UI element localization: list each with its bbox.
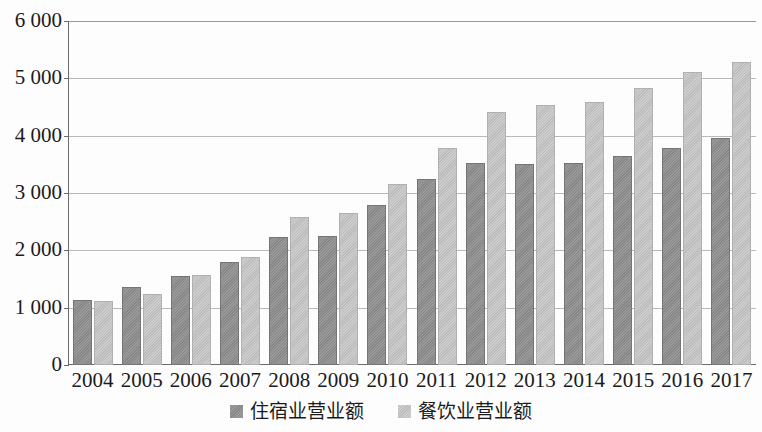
x-axis-tick-label: 2010 [363,368,412,392]
x-axis-labels: 2004200520062007200820092010201120122013… [68,368,756,396]
y-axis-tick-label: 2 000 [0,239,62,260]
bar-group [461,21,510,365]
bar-2005-accommodation[interactable] [122,287,141,365]
bar-group [215,21,264,365]
y-axis-tick-label: 0 [0,354,62,375]
bar-2016-accommodation[interactable] [662,148,681,365]
bar-2017-accommodation[interactable] [711,138,730,365]
legend-label-catering: 餐饮业营业额 [418,401,532,422]
x-axis-tick-label: 2015 [609,368,658,392]
bar-2005-catering[interactable] [143,294,162,365]
bar-2017-catering[interactable] [732,62,751,365]
bar-2015-catering[interactable] [634,88,653,365]
x-axis-tick-label: 2009 [314,368,363,392]
bar-2004-accommodation[interactable] [73,300,92,365]
bar-2011-accommodation[interactable] [417,179,436,365]
bar-group [510,21,559,365]
y-axis-tick-label: 4 000 [0,125,62,146]
bar-2016-catering[interactable] [683,72,702,365]
bar-group [265,21,314,365]
bar-2014-accommodation[interactable] [564,163,583,365]
bar-group [609,21,658,365]
chart-legend: 住宿业营业额 餐饮业营业额 [0,401,762,422]
y-axis-labels: 01 0002 0003 0004 0005 0006 000 [0,0,62,432]
bar-2013-accommodation[interactable] [515,164,534,365]
bar-2012-catering[interactable] [487,112,506,365]
y-axis-tick-label: 6 000 [0,10,62,31]
bar-2010-accommodation[interactable] [367,205,386,365]
y-axis-tick-label: 3 000 [0,182,62,203]
bar-2009-catering[interactable] [339,213,358,366]
bar-group [314,21,363,365]
x-axis-tick-label: 2016 [658,368,707,392]
x-axis-tick-label: 2012 [461,368,510,392]
x-axis-tick-label: 2008 [265,368,314,392]
x-axis-tick-label: 2007 [215,368,264,392]
x-axis-tick-label: 2017 [707,368,756,392]
bar-2014-catering[interactable] [585,102,604,365]
bars-layer [68,21,756,365]
x-axis-tick-label: 2005 [117,368,166,392]
bar-2006-accommodation[interactable] [171,276,190,365]
x-axis-tick-label: 2014 [559,368,608,392]
bar-2004-catering[interactable] [94,301,113,365]
bar-2007-catering[interactable] [241,257,260,365]
bar-group [363,21,412,365]
bar-2006-catering[interactable] [192,275,211,365]
legend-item-catering[interactable]: 餐饮业营业额 [398,401,532,422]
y-axis-tick-label: 5 000 [0,67,62,88]
legend-item-accommodation[interactable]: 住宿业营业额 [230,401,364,422]
bar-group [559,21,608,365]
legend-swatch-icon-catering [398,405,411,418]
bar-group [658,21,707,365]
bar-group [166,21,215,365]
bar-2009-accommodation[interactable] [318,236,337,365]
y-axis-tick-label: 1 000 [0,297,62,318]
legend-label-accommodation: 住宿业营业额 [250,401,364,422]
x-axis-tick-label: 2011 [412,368,461,392]
bar-2012-accommodation[interactable] [466,163,485,365]
bar-group [412,21,461,365]
x-axis-tick-label: 2004 [68,368,117,392]
y-tick-0 [64,365,69,366]
bar-2008-catering[interactable] [290,217,309,365]
bar-2008-accommodation[interactable] [269,237,288,365]
bar-2010-catering[interactable] [388,184,407,365]
bar-2011-catering[interactable] [438,148,457,365]
x-axis-tick-label: 2013 [510,368,559,392]
bar-group [68,21,117,365]
x-axis-tick-label: 2006 [166,368,215,392]
bar-2007-accommodation[interactable] [220,262,239,365]
bar-group [707,21,756,365]
legend-swatch-icon-accommodation [230,405,243,418]
bar-2015-accommodation[interactable] [613,156,632,365]
bar-chart: 01 0002 0003 0004 0005 0006 000 20042005… [0,0,762,432]
bar-group [117,21,166,365]
bar-2013-catering[interactable] [536,105,555,365]
